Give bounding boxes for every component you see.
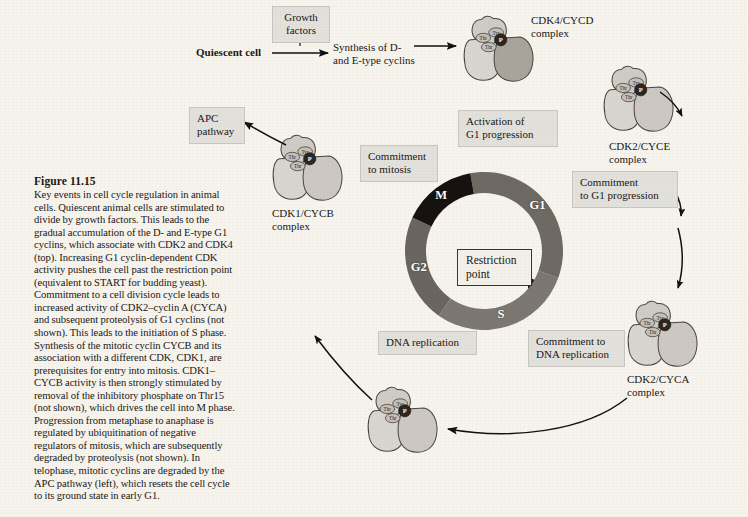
- svg-text:P: P: [308, 155, 312, 162]
- phase-label-g1: G1: [529, 198, 545, 213]
- svg-text:P: P: [403, 407, 407, 414]
- dna-replication-box: DNA replication: [378, 331, 477, 355]
- svg-text:P: P: [639, 86, 643, 93]
- cdk2-cyce-label: CDK2/CYCE complex: [609, 140, 670, 166]
- cdk2-cyca-label: CDK2/CYCA complex: [627, 373, 689, 399]
- arrow-commitment-g1-down: [678, 228, 683, 288]
- svg-text:Thr: Thr: [480, 35, 488, 41]
- arrow-bottom-to-cdk1cycb: [315, 336, 372, 400]
- commitment-to-mitosis-box: Commitment to mitosis: [360, 145, 438, 182]
- svg-text:Thr: Thr: [649, 329, 657, 335]
- cdk-complex-cdk1-cycb: Tyr Thr Thr P: [273, 135, 342, 200]
- growth-factors-box: Growth factors: [272, 6, 330, 43]
- cdk1-cycb-label: CDK1/CYCB complex: [272, 207, 334, 233]
- svg-text:Thr: Thr: [289, 154, 297, 160]
- arrow-cdk2cyca-to-bottom-complex: [448, 398, 627, 434]
- commitment-to-dna-replication-box: Commitment to DNA replication: [528, 330, 625, 367]
- figure-number: Figure 11.15: [34, 174, 236, 188]
- svg-text:P: P: [663, 321, 667, 328]
- svg-text:Thr: Thr: [294, 163, 302, 169]
- cdk-complex-cdk2-cyca: Tyr Thr Thr P: [628, 301, 697, 366]
- commitment-to-g1-progression-box: Commitment to G1 progression: [572, 171, 678, 208]
- svg-text:Thr: Thr: [625, 94, 633, 100]
- svg-text:Thr: Thr: [485, 44, 493, 50]
- cdk4-cycd-label: CDK4/CYCD complex: [531, 14, 593, 40]
- synthesis-label: Synthesis of D- and E-type cyclins: [333, 41, 415, 67]
- svg-text:P: P: [499, 36, 503, 43]
- cdk-complex-cdk2-cyce: Tyr Thr Thr P: [604, 66, 673, 131]
- quiescent-cell-label: Quiescent cell: [196, 46, 261, 59]
- apc-pathway-box: APC pathway: [189, 107, 245, 144]
- svg-text:Thr: Thr: [644, 320, 652, 326]
- cdk-complex-cdk4-cycd: Tyr Thr Thr P: [464, 16, 533, 81]
- svg-text:Thr: Thr: [384, 406, 392, 412]
- figure-caption-text: Key events in cell cycle regulation in a…: [34, 189, 236, 503]
- svg-text:Thr: Thr: [389, 415, 397, 421]
- cdk-complex-bottom: Tyr Thr Thr P: [368, 387, 437, 452]
- activation-of-g1-progression-box: Activation of G1 progression: [458, 110, 558, 147]
- phase-label-s: S: [498, 307, 505, 322]
- arrow-cdk1cycb-to-apc: [244, 122, 286, 145]
- svg-text:Thr: Thr: [620, 85, 628, 91]
- figure-caption: Figure 11.15 Key events in cell cycle re…: [34, 174, 236, 503]
- phase-label-m: M: [435, 188, 447, 203]
- phase-label-g2: G2: [411, 260, 427, 275]
- figure-11-15: Tyr Thr Thr P Tyr Thr Thr P Tyr: [0, 0, 748, 517]
- restriction-point-box: Restriction point: [457, 249, 532, 286]
